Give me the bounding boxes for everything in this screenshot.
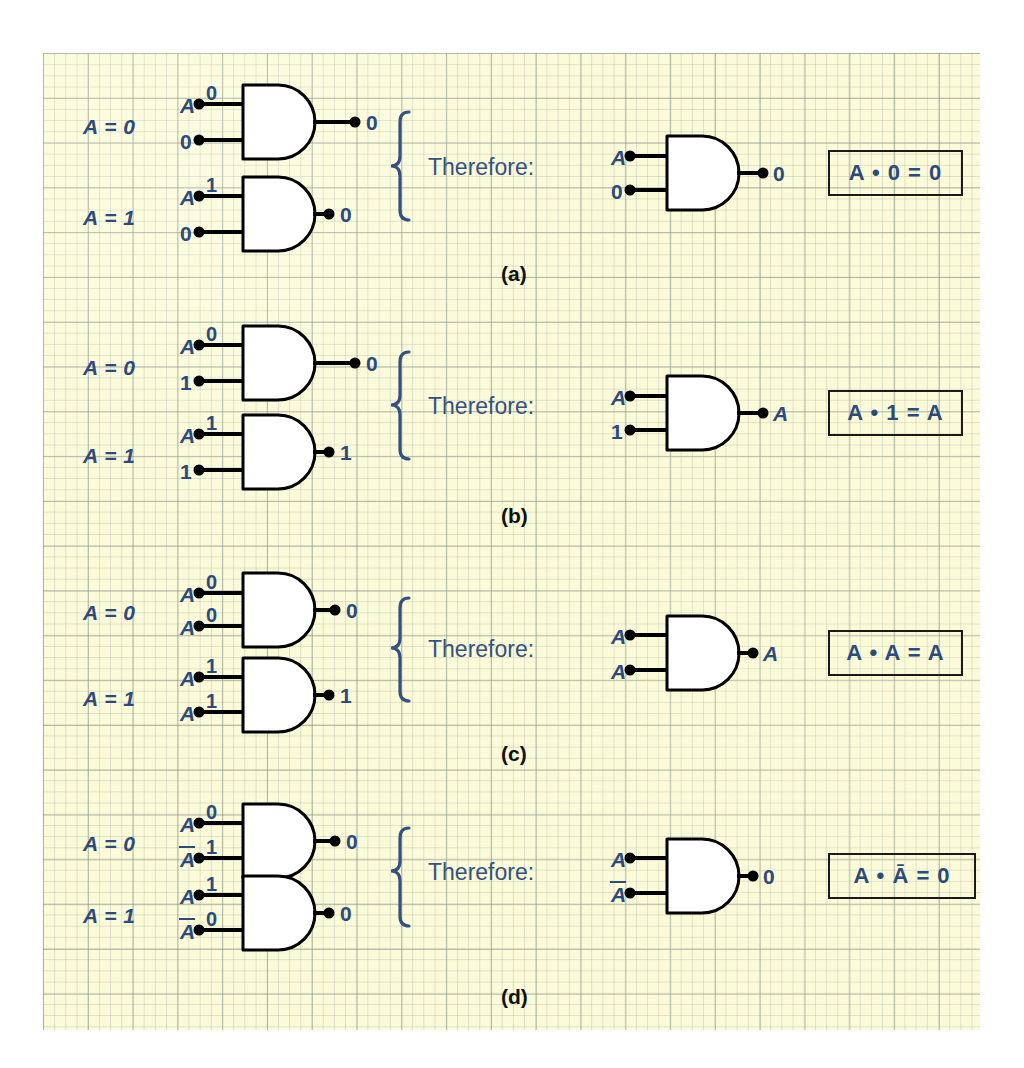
section-a-row1-input1-bit: 0 <box>206 83 217 103</box>
section-d-row2-input2-bit: 0 <box>206 909 217 929</box>
section-a-row2-input1-bit: 1 <box>206 175 217 195</box>
section-d-law-text: A • Ā = 0 <box>853 863 950 889</box>
section-a-row2-output: 0 <box>340 204 352 225</box>
section-b-law-text: A • 1 = A <box>847 400 943 426</box>
section-d-row1-condition: A = 0 <box>83 833 136 854</box>
section-a-row1-input2-label: 0 <box>180 131 192 152</box>
section-a-row1-condition: A = 0 <box>83 116 136 137</box>
section-c-row1-input2-bit: 0 <box>206 605 217 625</box>
section-b-row1-input1-label: A <box>180 336 195 357</box>
section-b-row2-input1-label: A <box>180 425 195 446</box>
section-a-conclusion-input2: 0 <box>611 181 623 202</box>
section-c-row2-output: 1 <box>340 685 352 706</box>
section-b-row1-input2-label: 1 <box>180 372 192 393</box>
section-c-law-text: A • A = A <box>846 640 944 666</box>
section-d-row1-output: 0 <box>346 831 358 852</box>
section-d-conclusion-output: 0 <box>763 866 775 887</box>
section-a-therefore-label: Therefore: <box>428 156 534 179</box>
section-d-row2-condition: A = 1 <box>83 905 136 926</box>
section-c-row2-input2-bit: 1 <box>206 691 217 711</box>
section-c-conclusion-input1: A <box>611 626 626 647</box>
section-d-row2-input1-bit: 1 <box>206 874 217 894</box>
section-c-therefore-label: Therefore: <box>428 638 534 661</box>
section-a-row2-condition: A = 1 <box>83 207 136 228</box>
section-c-law-box: A • A = A <box>828 630 963 676</box>
section-b-row2-input2-label: 1 <box>180 461 192 482</box>
section-c-row1-condition: A = 0 <box>83 602 136 623</box>
section-a-conclusion-output: 0 <box>773 163 785 184</box>
section-c-row2-input1-label: A <box>180 668 195 689</box>
section-b-row2-input1-bit: 1 <box>206 413 217 433</box>
section-c-conclusion-input2: A <box>611 661 626 682</box>
section-b-row1-output: 0 <box>366 353 378 374</box>
section-a-row1-output: 0 <box>366 112 378 133</box>
section-a-label: (a) <box>501 262 527 286</box>
section-a-row1-input1-label: A <box>180 95 195 116</box>
section-d-row2-input1-label: A <box>180 886 195 907</box>
section-d-law-box: A • Ā = 0 <box>828 853 976 899</box>
section-d-row1-input2-bit: 1 <box>206 837 217 857</box>
section-c-row2-condition: A = 1 <box>83 688 136 709</box>
section-d-row2-input2-label: A <box>180 921 195 942</box>
section-b-row1-condition: A = 0 <box>83 357 136 378</box>
section-b-row1-input1-bit: 0 <box>206 324 217 344</box>
section-b-row2-output: 1 <box>340 442 352 463</box>
section-d-conclusion-input2: A <box>611 884 626 905</box>
section-d-row1-input1-label: A <box>180 814 195 835</box>
section-d-row1-input1-bit: 0 <box>206 802 217 822</box>
section-d-therefore-label: Therefore: <box>428 861 534 884</box>
section-b-conclusion-output: A <box>773 403 788 424</box>
section-c-row1-input1-label: A <box>180 584 195 605</box>
section-b-label: (b) <box>501 504 528 528</box>
section-a-law-box: A • 0 = 0 <box>828 150 963 196</box>
section-c-row1-output: 0 <box>346 600 358 621</box>
section-a-row2-input1-label: A <box>180 187 195 208</box>
section-a-row2-input2-label: 0 <box>180 223 192 244</box>
section-d-row1-input2-label: A <box>180 849 195 870</box>
section-b-law-box: A • 1 = A <box>828 390 963 436</box>
section-b-conclusion-input1: A <box>611 387 626 408</box>
section-c-conclusion-output: A <box>763 643 778 664</box>
section-b-conclusion-input2: 1 <box>611 421 623 442</box>
section-d-conclusion-input1: A <box>611 849 626 870</box>
section-c-row2-input1-bit: 1 <box>206 656 217 676</box>
section-c-row2-input2-label: A <box>180 703 195 724</box>
section-d-row2-output: 0 <box>340 903 352 924</box>
section-a-conclusion-input1: A <box>611 147 626 168</box>
section-c-row1-input2-label: A <box>180 617 195 638</box>
section-b-row2-condition: A = 1 <box>83 445 136 466</box>
section-b-therefore-label: Therefore: <box>428 395 534 418</box>
section-d-label: (d) <box>501 985 528 1009</box>
section-c-row1-input1-bit: 0 <box>206 572 217 592</box>
section-a-law-text: A • 0 = 0 <box>849 160 943 186</box>
section-c-label: (c) <box>501 742 527 766</box>
